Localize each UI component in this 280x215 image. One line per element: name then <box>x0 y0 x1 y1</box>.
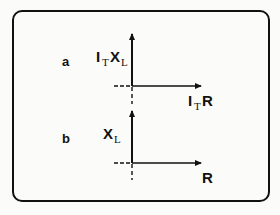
svg-text:I: I <box>188 92 192 109</box>
svg-text:L: L <box>121 56 128 68</box>
panel-a: a I T X L I T R <box>62 34 213 112</box>
panel-b-label: b <box>62 131 70 146</box>
svg-text:T: T <box>102 56 109 68</box>
panel-b: b X L R <box>62 111 213 186</box>
panel-a-vertical-label: I T X L <box>96 48 128 68</box>
panel-a-horizontal-label: I T R <box>188 92 213 112</box>
svg-text:X: X <box>103 125 113 142</box>
svg-text:L: L <box>114 133 121 145</box>
panel-b-vertical-label: X L <box>103 125 121 145</box>
panel-b-horizontal-label: R <box>202 169 213 186</box>
svg-text:I: I <box>96 48 100 65</box>
svg-text:X: X <box>110 48 120 65</box>
phasor-diagrams: a I T X L I T R b X L R <box>0 0 280 215</box>
svg-text:R: R <box>202 92 213 109</box>
panel-a-label: a <box>62 54 70 69</box>
svg-text:T: T <box>194 100 201 112</box>
